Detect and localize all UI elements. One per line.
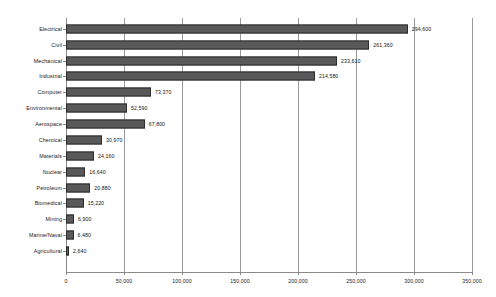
- x-tick-mark: [472, 272, 473, 275]
- category-label-industrial: Industrial: [39, 73, 62, 79]
- bar-row: Environmental52,590: [66, 100, 472, 116]
- x-tick-label: 100,000: [172, 278, 191, 284]
- bar-row: Chemical30,970: [66, 132, 472, 148]
- bar-mechanical: [66, 56, 337, 65]
- bar-value-label: 214,580: [319, 73, 338, 79]
- bar-civil: [66, 40, 369, 49]
- bar-industrial: [66, 72, 315, 81]
- category-label-chemical: Chemical: [39, 137, 62, 143]
- bar-row: Electrical294,600: [66, 21, 472, 37]
- x-tick-label: 250,000: [346, 278, 365, 284]
- plot-area: Electrical294,600Civil261,360Mechanical2…: [66, 18, 472, 272]
- category-label-computer: Computer: [38, 89, 62, 95]
- x-tick-mark: [414, 272, 415, 275]
- bar-chart: Electrical294,600Civil261,360Mechanical2…: [0, 0, 496, 297]
- category-label-biomedical: Biomedical: [35, 200, 62, 206]
- bar-value-label: 6,900: [78, 216, 91, 222]
- bar-row: Civil261,360: [66, 37, 472, 53]
- bar-electrical: [66, 24, 408, 33]
- x-tick-mark: [298, 272, 299, 275]
- bar-value-label: 2,640: [73, 248, 86, 254]
- x-tick-label: 200,000: [288, 278, 307, 284]
- bar-row: Mechanical233,610: [66, 53, 472, 69]
- bar-biomedical: [66, 199, 84, 208]
- bar-agricultural: [66, 247, 69, 256]
- category-label-mining: Mining: [46, 216, 62, 222]
- bar-value-label: 20,880: [94, 185, 110, 191]
- x-tick-mark: [356, 272, 357, 275]
- bar-value-label: 73,370: [155, 89, 171, 95]
- bar-petroleum: [66, 183, 90, 192]
- bar-row: Agricultural2,640: [66, 243, 472, 259]
- bar-row: Industrial214,580: [66, 68, 472, 84]
- bar-computer: [66, 88, 151, 97]
- bar-value-label: 233,610: [341, 58, 360, 64]
- bar-value-label: 67,800: [149, 121, 165, 127]
- category-label-electrical: Electrical: [39, 26, 62, 32]
- bar-row: Marine/Naval6,480: [66, 227, 472, 243]
- bar-row: Petroleum20,880: [66, 180, 472, 196]
- category-label-mechanical: Mechanical: [34, 58, 62, 64]
- category-label-materials: Materials: [39, 153, 62, 159]
- bar-row: Biomedical15,220: [66, 195, 472, 211]
- bar-value-label: 261,360: [373, 42, 392, 48]
- bar-row: Materials24,160: [66, 148, 472, 164]
- bar-row: Mining6,900: [66, 211, 472, 227]
- x-tick-label: 350,000: [462, 278, 481, 284]
- bar-value-label: 16,640: [89, 169, 105, 175]
- category-label-marine-naval: Marine/Naval: [29, 232, 62, 238]
- bar-value-label: 6,480: [78, 232, 91, 238]
- bar-environmental: [66, 104, 127, 113]
- x-tick-label: 0: [65, 278, 68, 284]
- category-label-environmental: Environmental: [26, 105, 62, 111]
- category-label-nuclear: Nuclear: [43, 169, 62, 175]
- x-tick-mark: [240, 272, 241, 275]
- bar-value-label: 30,970: [106, 137, 122, 143]
- gridline-350000: [472, 18, 473, 272]
- bar-row: Aerospace67,800: [66, 116, 472, 132]
- x-tick-label: 150,000: [230, 278, 249, 284]
- bar-materials: [66, 151, 94, 160]
- bar-aerospace: [66, 120, 145, 129]
- x-tick-mark: [182, 272, 183, 275]
- category-label-aerospace: Aerospace: [35, 121, 62, 127]
- category-label-agricultural: Agricultural: [34, 248, 62, 254]
- bar-value-label: 15,220: [88, 200, 104, 206]
- bar-marine-naval: [66, 231, 74, 240]
- bar-row: Nuclear16,640: [66, 164, 472, 180]
- bar-nuclear: [66, 167, 85, 176]
- bar-value-label: 294,600: [412, 26, 431, 32]
- bar-chemical: [66, 135, 102, 144]
- category-label-civil: Civil: [51, 42, 62, 48]
- x-axis-line: [66, 272, 472, 273]
- x-tick-mark: [66, 272, 67, 275]
- bar-value-label: 52,590: [131, 105, 147, 111]
- bar-value-label: 24,160: [98, 153, 114, 159]
- bar-mining: [66, 215, 74, 224]
- x-tick-mark: [124, 272, 125, 275]
- x-tick-label: 300,000: [404, 278, 423, 284]
- bar-row: Computer73,370: [66, 84, 472, 100]
- category-label-petroleum: Petroleum: [37, 185, 62, 191]
- x-tick-label: 50,000: [116, 278, 132, 284]
